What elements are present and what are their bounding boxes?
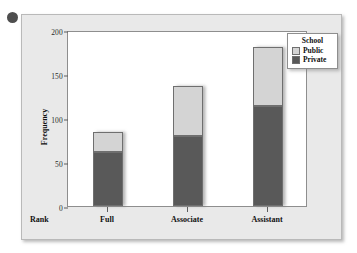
bar-segment-private[interactable] [173,136,203,206]
legend-swatch-icon [292,56,300,64]
y-tick-mark [64,120,68,121]
y-axis-title: Frequency [40,109,49,145]
x-tick-mark [187,207,188,212]
bar-segment-private[interactable] [93,152,123,206]
bar-segment-public[interactable] [93,132,123,152]
legend-item-label: Public [303,47,323,55]
y-tick-mark [64,32,68,33]
x-axis-labels: FullAssociateAssistant [67,215,307,229]
legend-swatch-icon [292,47,300,55]
x-tick-label: Associate [171,215,203,224]
x-tick-label: Assistant [251,215,282,224]
filled-circle-icon [7,12,18,23]
bar-segment-private[interactable] [253,106,283,206]
plot-area: 050100150200 [67,31,307,207]
stacked-bar[interactable] [173,86,203,206]
legend[interactable]: School PublicPrivate [287,33,338,69]
x-tick-mark [107,207,108,212]
y-tick-mark [64,164,68,165]
x-axis-title: Rank [30,215,49,224]
chart-screenshot: Frequency 050100150200 FullAssociateAssi… [0,0,357,253]
y-tick-mark [64,76,68,77]
stacked-bar[interactable] [93,132,123,206]
chart-panel: Frequency 050100150200 FullAssociateAssi… [21,14,342,240]
legend-item-label: Private [303,56,326,64]
legend-title: School [292,37,333,45]
y-tick-mark [64,208,68,209]
x-tick-label: Full [100,215,114,224]
x-tick-mark [267,207,268,212]
legend-item-private[interactable]: Private [292,56,333,64]
bar-segment-public[interactable] [173,86,203,136]
stacked-bar[interactable] [253,47,283,206]
bar-segment-public[interactable] [253,47,283,106]
legend-item-public[interactable]: Public [292,47,333,55]
